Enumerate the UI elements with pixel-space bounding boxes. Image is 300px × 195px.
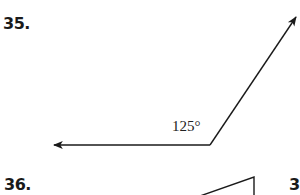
- angle-figure: [0, 0, 300, 195]
- angle-ray-upper-right: [210, 17, 296, 145]
- problem-number-36: 36.: [4, 175, 31, 194]
- problem-number-37-partial: 3: [289, 175, 300, 194]
- triangle-figure-36: [200, 177, 254, 195]
- angle-measure-label: 125°: [172, 118, 201, 135]
